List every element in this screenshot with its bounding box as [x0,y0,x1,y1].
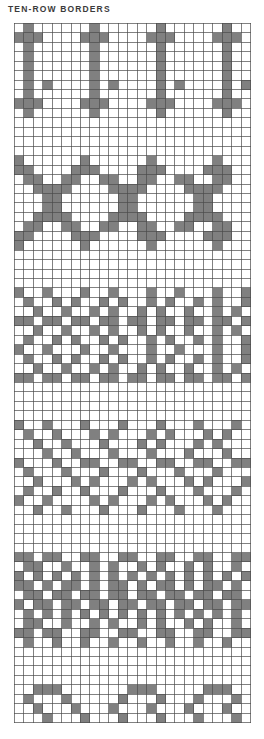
chart-cell-filled [24,335,33,344]
chart-cell-filled [71,448,80,457]
chart-cell-filled [109,448,118,457]
chart-cell-filled [194,628,203,637]
chart-cell-filled [203,561,212,570]
chart-cell-filled [90,476,99,485]
chart-cell-filled [33,703,42,712]
chart-cell-filled [62,599,71,608]
chart-cell-filled [147,165,156,174]
chart-cell-filled [241,354,250,363]
chart-cell-filled [232,713,241,722]
chart-cell-filled [71,335,80,344]
chart-cell-filled [241,552,250,561]
chart-cell-filled [109,703,118,712]
chart-cell-filled [213,184,222,193]
chart-cell-filled [147,231,156,240]
chart-cell-filled [24,590,33,599]
chart-cell-filled [128,476,137,485]
chart-cell-filled [43,344,52,353]
chart-cell-filled [137,363,146,372]
chart-cell-filled [128,599,137,608]
chart-cell-filled [14,373,23,382]
chart-cell-filled [147,703,156,712]
chart-cell-filled [213,684,222,693]
chart-cell-filled [109,429,118,438]
chart-cell-filled [80,609,89,618]
chart-cell-filled [213,231,222,240]
chart-cell-filled [213,174,222,183]
chart-cell-filled [156,70,165,79]
chart-cell-filled [232,609,241,618]
chart-cell-filled [99,316,108,325]
chart-cell-filled [137,467,146,476]
chart-cell-filled [241,316,250,325]
chart-cell-filled [166,429,175,438]
chart-cell-filled [194,184,203,193]
chart-cell-filled [24,32,33,41]
chart-cell-filled [184,476,193,485]
chart-cell-filled [222,684,231,693]
chart-cell-filled [43,80,52,89]
chart-cell-filled [33,184,42,193]
chart-cell-filled [52,184,61,193]
chart-cell-filled [232,98,241,107]
chart-cell-filled [71,231,80,240]
chart-cell-filled [166,316,175,325]
chart-cell-filled [184,174,193,183]
chart-cell-filled [222,221,231,230]
chart-cell-filled [213,580,222,589]
chart-cell-filled [118,354,127,363]
chart-cell-filled [222,571,231,580]
chart-cell-filled [62,174,71,183]
chart-grid-svg [14,23,251,723]
chart-cell-filled [147,287,156,296]
chart-cell-filled [118,552,127,561]
chart-cell-filled [128,373,137,382]
chart-cell-filled [43,628,52,637]
chart-cell-filled [80,98,89,107]
chart-cell-filled [137,505,146,514]
chart-cell-filled [99,221,108,230]
chart-cell-filled [137,590,146,599]
chart-cell-filled [184,561,193,570]
chart-cell-filled [90,590,99,599]
chart-cell-filled [14,98,23,107]
chart-cell-filled [213,240,222,249]
chart-cell-filled [156,628,165,637]
chart-cell-filled [99,505,108,514]
chart-cell-filled [24,23,33,32]
chart-cell-filled [184,221,193,230]
chart-cell-filled [156,552,165,561]
chart-cell-filled [232,32,241,41]
chart-cell-filled [203,458,212,467]
chart-cell-filled [156,486,165,495]
chart-cell-filled [203,590,212,599]
chart-cell-filled [194,458,203,467]
chart-cell-filled [222,32,231,41]
chart-cell-filled [14,32,23,41]
chart-cell-filled [194,202,203,211]
chart-cell-filled [71,316,80,325]
chart-cell-filled [24,98,33,107]
chart-cell-filled [175,80,184,89]
chart-cell-filled [118,458,127,467]
chart-cell-filled [90,80,99,89]
chart-cell-filled [222,51,231,60]
chart-cell-filled [222,495,231,504]
chart-cell-filled [109,571,118,580]
chart-cell-filled [222,108,231,117]
chart-cell-filled [232,561,241,570]
chart-cell-filled [14,580,23,589]
chart-cell-filled [156,80,165,89]
chart-cell-filled [43,202,52,211]
chart-cell-filled [213,212,222,221]
chart-cell-filled [156,306,165,315]
chart-cell-filled [175,590,184,599]
chart-cell-filled [90,23,99,32]
chart-cell-filled [118,713,127,722]
chart-cell-filled [137,580,146,589]
chart-cell-filled [147,495,156,504]
chart-cell-filled [203,571,212,580]
chart-cell-filled [62,505,71,514]
chart-cell-filled [194,297,203,306]
chart-cell-filled [137,325,146,334]
